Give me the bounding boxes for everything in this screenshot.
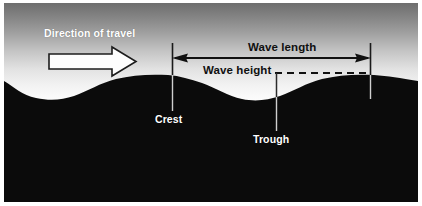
crest-label: Crest — [155, 113, 182, 125]
wave-diagram-figure: Direction of travel Wave length Wave hei… — [0, 0, 422, 206]
diagram-frame: Direction of travel Wave length Wave hei… — [4, 3, 418, 202]
water-surface-path — [4, 75, 418, 202]
wave-length-label: Wave length — [248, 41, 316, 53]
trough-label: Trough — [253, 133, 289, 145]
wave-height-label: Wave height — [203, 64, 271, 76]
wave-length-left-arrowhead — [172, 54, 188, 63]
direction-of-travel-label: Direction of travel — [44, 27, 135, 39]
direction-of-travel-arrow-icon — [49, 47, 136, 76]
wave-length-right-arrowhead — [355, 54, 371, 63]
